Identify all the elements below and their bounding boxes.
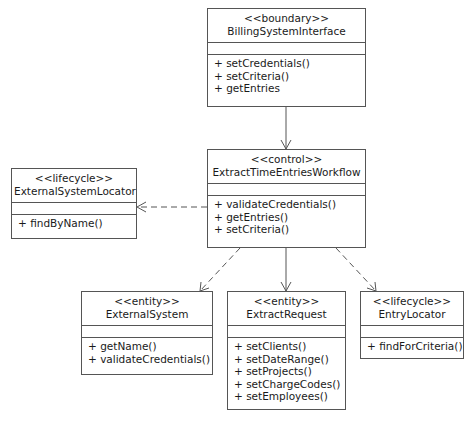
operation: + setClients() — [234, 340, 339, 353]
operation: + validateCredentials() — [88, 353, 206, 366]
operation: + validateCredentials() — [214, 198, 359, 211]
operations-compartment: + findByName() — [12, 215, 136, 233]
class-name: EntryLocator — [363, 308, 461, 321]
class-name: ExternalSystemLocator — [14, 185, 134, 198]
operation: + findForCriteria() — [367, 340, 457, 353]
operation: + setDateRange() — [234, 353, 339, 366]
stereotype: <<boundary>> — [210, 12, 363, 25]
operation: + setCredentials() — [214, 57, 359, 70]
class-header: <<control>> ExtractTimeEntriesWorkflow — [208, 150, 365, 184]
operation: + setChargeCodes() — [234, 378, 339, 391]
class-extract-time-entries-workflow[interactable]: <<control>> ExtractTimeEntriesWorkflow +… — [207, 149, 366, 248]
class-name: BillingSystemInterface — [210, 25, 363, 38]
operations-compartment: + getName() + validateCredentials() — [82, 338, 212, 368]
class-header: <<lifecycle>> ExternalSystemLocator — [12, 169, 136, 203]
class-header: <<entity>> ExternalSystem — [82, 292, 212, 326]
class-header: <<boundary>> BillingSystemInterface — [208, 9, 365, 43]
operations-compartment: + validateCredentials() + getEntries() +… — [208, 196, 365, 239]
operation: + setCriteria() — [214, 223, 359, 236]
class-header: <<entity>> ExtractRequest — [228, 292, 345, 326]
operations-compartment: + setClients() + setDateRange() + setPro… — [228, 338, 345, 406]
class-external-system-locator[interactable]: <<lifecycle>> ExternalSystemLocator + fi… — [11, 168, 137, 239]
class-name: ExtractTimeEntriesWorkflow — [210, 166, 363, 179]
class-name: ExternalSystem — [84, 308, 210, 321]
class-external-system[interactable]: <<entity>> ExternalSystem + getName() + … — [81, 291, 213, 375]
class-billing-system-interface[interactable]: <<boundary>> BillingSystemInterface + se… — [207, 8, 366, 107]
arrow-workflow-to-external — [200, 248, 240, 291]
operation: + setEmployees() — [234, 390, 339, 403]
attributes-compartment — [208, 184, 365, 196]
stereotype: <<lifecycle>> — [363, 295, 461, 308]
operation: + getName() — [88, 340, 206, 353]
arrow-workflow-to-entry — [336, 248, 376, 291]
attributes-compartment — [361, 326, 463, 338]
class-header: <<lifecycle>> EntryLocator — [361, 292, 463, 326]
class-entry-locator[interactable]: <<lifecycle>> EntryLocator + findForCrit… — [360, 291, 464, 359]
attributes-compartment — [82, 326, 212, 338]
stereotype: <<control>> — [210, 153, 363, 166]
class-extract-request[interactable]: <<entity>> ExtractRequest + setClients()… — [227, 291, 346, 410]
operation: + getEntries() — [214, 211, 359, 224]
stereotype: <<entity>> — [84, 295, 210, 308]
operations-compartment: + setCredentials() + setCriteria() + get… — [208, 55, 365, 98]
operation: + setProjects() — [234, 365, 339, 378]
attributes-compartment — [208, 43, 365, 55]
operation: + findByName() — [18, 217, 130, 230]
operation: + setCriteria() — [214, 70, 359, 83]
operation: + getEntries — [214, 82, 359, 95]
stereotype: <<entity>> — [230, 295, 343, 308]
operations-compartment: + findForCriteria() — [361, 338, 463, 356]
stereotype: <<lifecycle>> — [14, 172, 134, 185]
attributes-compartment — [228, 326, 345, 338]
attributes-compartment — [12, 203, 136, 215]
class-name: ExtractRequest — [230, 308, 343, 321]
